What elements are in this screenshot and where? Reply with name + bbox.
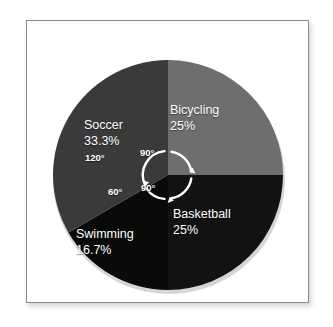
pie-label-bicycling: Bicycling 25% bbox=[170, 103, 219, 134]
pie-chart-svg bbox=[28, 55, 307, 302]
angle-label-bicycling: 90° bbox=[140, 147, 154, 158]
pie-label-soccer: Soccer 33.3% bbox=[84, 118, 123, 149]
pie-label-swimming: Swimming 16.7% bbox=[76, 227, 134, 258]
pie-label-swimming-name: Swimming bbox=[76, 227, 134, 241]
pie-label-bicycling-name: Bicycling bbox=[170, 103, 219, 117]
pie-label-swimming-percent: 16.7% bbox=[76, 243, 134, 259]
pie-chart: Bicycling 25% Soccer 33.3% Basketball 25… bbox=[28, 55, 307, 302]
pie-label-basketball: Basketball 25% bbox=[173, 207, 231, 238]
pie-label-basketball-name: Basketball bbox=[173, 207, 231, 221]
pie-label-soccer-percent: 33.3% bbox=[84, 134, 123, 150]
angle-label-basketball: 90° bbox=[141, 182, 155, 193]
angle-label-swimming: 60° bbox=[108, 186, 122, 197]
pie-label-bicycling-percent: 25% bbox=[170, 119, 219, 135]
pie-label-soccer-name: Soccer bbox=[84, 118, 123, 132]
angle-label-soccer: 120° bbox=[85, 152, 105, 163]
pie-label-basketball-percent: 25% bbox=[173, 223, 231, 239]
